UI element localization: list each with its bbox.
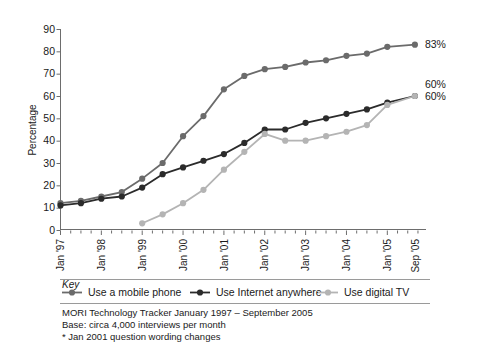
data-point <box>160 171 166 177</box>
axes-lines <box>61 29 427 230</box>
data-point <box>139 220 145 226</box>
data-point <box>282 64 288 70</box>
y-tick-label: 50 <box>43 112 55 124</box>
y-tick-label: 20 <box>43 179 55 191</box>
x-tick-label: Jan '04 <box>341 239 352 271</box>
x-tick-label: Jan '05 <box>382 239 393 271</box>
y-tick-label: 40 <box>43 134 55 146</box>
x-tick-label: Jan '02 <box>259 239 270 271</box>
x-tick-label: Jan '97 <box>55 239 66 271</box>
series-2 <box>57 93 418 209</box>
data-point <box>221 167 227 173</box>
data-point <box>98 196 104 202</box>
data-point <box>282 126 288 132</box>
data-point <box>384 44 390 50</box>
legend-item-label: Use digital TV <box>344 286 409 298</box>
x-axis-ticks <box>61 231 418 236</box>
series-1 <box>57 42 418 207</box>
data-point <box>262 66 268 72</box>
data-point <box>200 158 206 164</box>
data-point <box>160 160 166 166</box>
series-3 <box>139 93 418 227</box>
series-layer <box>57 42 418 227</box>
legend-item-1[interactable]: Use a mobile phone <box>62 286 182 298</box>
data-point <box>364 122 370 128</box>
footnotes: MORI Technology Tracker January 1997 – S… <box>62 307 313 342</box>
y-tick-label: 90 <box>43 23 55 35</box>
legend-swatch-marker <box>197 289 203 295</box>
legend: Use a mobile phoneUse Internet anywhereU… <box>62 286 409 298</box>
y-axis-title: Percentage <box>27 104 38 156</box>
data-point <box>384 102 390 108</box>
data-point <box>412 42 418 48</box>
data-point <box>323 57 329 63</box>
legend-swatch-marker <box>325 289 331 295</box>
data-point <box>241 149 247 155</box>
data-point <box>200 187 206 193</box>
data-point <box>221 151 227 157</box>
data-point <box>139 176 145 182</box>
data-point <box>323 115 329 121</box>
y-axis-tick-labels: 0102030405060708090 <box>43 23 55 236</box>
data-point <box>180 133 186 139</box>
series-end-label: 83% <box>425 38 446 50</box>
data-point <box>323 133 329 139</box>
data-point <box>303 138 309 144</box>
legend-title: Key <box>62 279 80 290</box>
series-line <box>61 45 415 204</box>
x-tick-label: Jan '99 <box>137 239 148 271</box>
legend-item-2[interactable]: Use Internet anywhere <box>190 286 322 298</box>
legend-swatch-marker <box>69 289 75 295</box>
data-point <box>221 86 227 92</box>
y-tick-label: 70 <box>43 67 55 79</box>
data-point <box>343 129 349 135</box>
data-point <box>364 50 370 56</box>
series-line <box>61 96 415 205</box>
data-point <box>343 53 349 59</box>
legend-item-label: Use a mobile phone <box>88 286 182 298</box>
x-tick-label: Jan '00 <box>178 239 189 271</box>
y-tick-label: 10 <box>43 201 55 213</box>
data-point <box>412 93 418 99</box>
y-tick-label: 0 <box>49 224 55 236</box>
x-tick-label: Jan '01 <box>219 239 230 271</box>
data-point <box>364 106 370 112</box>
data-point <box>119 193 125 199</box>
chart-container: Percentage 0102030405060708090 83%60%60%… <box>0 0 489 362</box>
y-tick-label: 80 <box>43 45 55 57</box>
data-point <box>180 164 186 170</box>
data-point <box>57 202 63 208</box>
data-point <box>180 200 186 206</box>
x-axis-tick-labels: Jan '97Jan '98Jan '99Jan '00Jan '01Jan '… <box>55 239 420 273</box>
legend-item-label: Use Internet anywhere <box>216 286 322 298</box>
series-end-label: 60% <box>425 78 446 90</box>
footnote-wording-change: * Jan 2001 question wording changes <box>62 331 221 342</box>
y-axis-title-text: Percentage <box>27 104 38 156</box>
data-point <box>303 120 309 126</box>
footnote-source: MORI Technology Tracker January 1997 – S… <box>62 307 313 318</box>
data-point <box>139 184 145 190</box>
series-end-labels: 83%60%60% <box>425 38 446 101</box>
data-point <box>343 111 349 117</box>
x-tick-label: Jan '03 <box>300 239 311 271</box>
x-tick-label: Jan '98 <box>96 239 107 271</box>
y-tick-label: 60 <box>43 90 55 102</box>
legend-item-3[interactable]: Use digital TV <box>318 286 409 298</box>
footnote-base: Base: circa 4,000 interviews per month <box>62 319 226 330</box>
data-point <box>262 131 268 137</box>
data-point <box>282 138 288 144</box>
data-point <box>200 113 206 119</box>
data-point <box>241 140 247 146</box>
technology-tracker-line-chart: Percentage 0102030405060708090 83%60%60%… <box>0 0 489 362</box>
y-tick-label: 30 <box>43 157 55 169</box>
data-point <box>241 73 247 79</box>
data-point <box>78 200 84 206</box>
x-tick-label: Sep '05 <box>410 239 421 273</box>
series-end-label: 60% <box>425 90 446 102</box>
data-point <box>160 211 166 217</box>
data-point <box>303 59 309 65</box>
